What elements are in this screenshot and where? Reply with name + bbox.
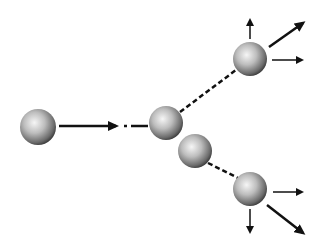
upper-trajectory-dashed xyxy=(180,70,236,112)
outgoing-sphere-lower xyxy=(233,172,267,206)
lower-trajectory-dashed xyxy=(208,163,238,178)
collision-diagram xyxy=(0,0,335,246)
target-sphere-1 xyxy=(149,106,183,140)
outgoing-sphere-upper xyxy=(233,42,267,76)
lower-diagonal-arrow xyxy=(267,205,303,233)
upper-diagonal-arrow xyxy=(269,23,303,47)
target-sphere-2 xyxy=(178,134,212,168)
incoming-sphere xyxy=(20,109,56,145)
